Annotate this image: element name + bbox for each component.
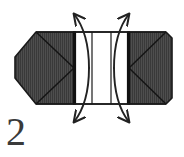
left-shaded-panel [15,32,74,104]
right-shaded-panel [129,32,172,104]
center-white-band [74,32,129,104]
folding-diagram-figure: 2 [0,0,184,157]
diagram-canvas [0,0,184,157]
paper-body [15,31,172,104]
step-number: 2 [6,112,26,152]
